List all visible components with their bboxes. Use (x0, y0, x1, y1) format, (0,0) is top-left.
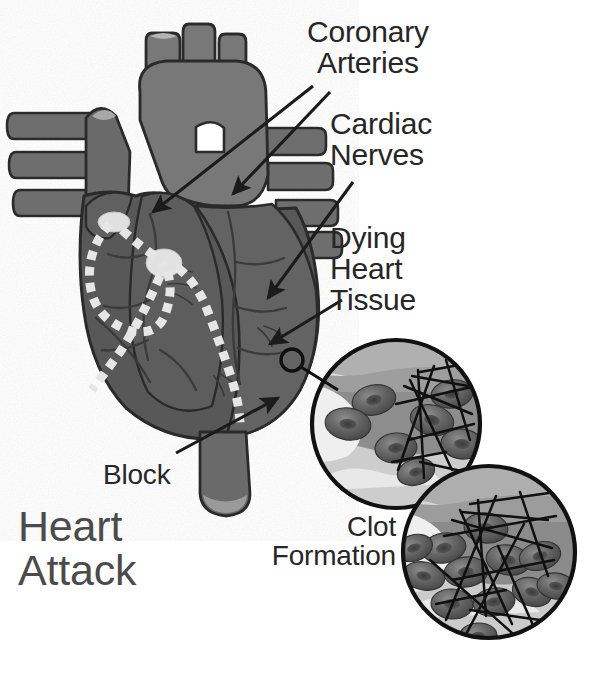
label-block: Block (103, 460, 253, 489)
label-clot-formation: Clot Formation (236, 512, 396, 570)
label-cardiac-nerves: Cardiac Nerves (330, 108, 510, 170)
label-dying-heart-tissue: Dying Heart Tissue (330, 222, 500, 316)
aortic-window (196, 122, 224, 152)
label-coronary-arteries: Coronary Arteries (268, 16, 468, 78)
figure-title: Heart Attack (18, 505, 248, 593)
